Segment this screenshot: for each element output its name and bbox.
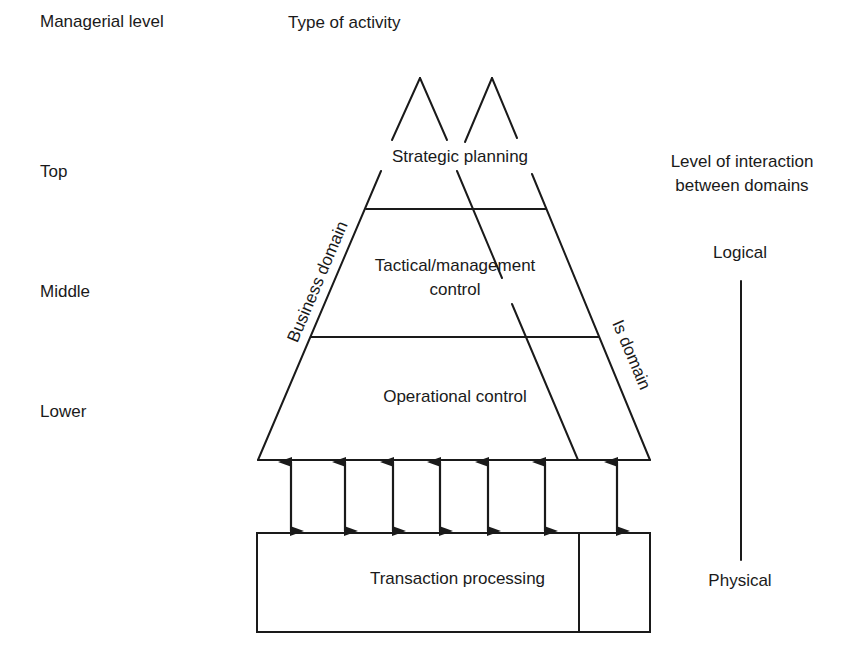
is-peak-right-edge <box>492 78 517 138</box>
strategic-planning-label: Strategic planning <box>360 147 560 167</box>
business-peak-left-edge <box>392 78 420 140</box>
is-domain-inner-edge-lower <box>512 304 578 460</box>
transaction-processing-label: Transaction processing <box>340 569 575 589</box>
tactical-label-line2: control <box>345 280 565 300</box>
business-domain-edge <box>258 171 381 460</box>
is-domain-outer-edge <box>532 174 650 460</box>
operational-control-label: Operational control <box>355 387 555 407</box>
tactical-label-line1: Tactical/management <box>345 256 565 276</box>
logical-label: Logical <box>690 243 790 263</box>
business-peak-right-edge <box>420 78 447 140</box>
physical-label: Physical <box>690 571 790 591</box>
is-peak-left-edge <box>465 78 492 142</box>
pyramid-diagram <box>0 0 865 662</box>
